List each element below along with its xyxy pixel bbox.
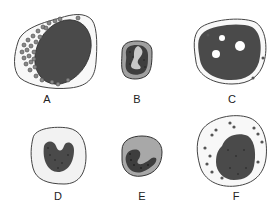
label-e: E xyxy=(132,190,152,202)
cell-diagram xyxy=(0,0,277,211)
label-f: F xyxy=(226,190,246,202)
cell-c xyxy=(194,19,266,84)
cell-f xyxy=(197,116,266,187)
label-b: B xyxy=(127,93,147,105)
label-c: C xyxy=(222,93,242,105)
cell-b xyxy=(122,41,152,79)
label-a: A xyxy=(37,93,57,105)
label-d: D xyxy=(48,190,68,202)
cell-e xyxy=(122,136,162,176)
cell-a xyxy=(15,10,103,95)
cell-d xyxy=(31,127,86,184)
